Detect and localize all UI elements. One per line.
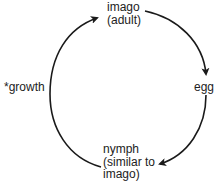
arrow-egg-to-nymph (160, 95, 206, 164)
node-egg-line-1: egg (194, 81, 214, 94)
node-imago-line-2: (adult) (107, 14, 141, 27)
arrow-nymph-to-imago (50, 18, 101, 167)
life-cycle-diagram: imago (adult) egg nymph (similar to imag… (0, 0, 221, 189)
node-nymph-line-3: imago) (103, 168, 155, 181)
node-nymph: nymph (similar to imago) (103, 143, 155, 181)
node-egg: egg (194, 81, 214, 94)
node-imago: imago (adult) (107, 1, 141, 26)
arrow-imago-to-egg (145, 11, 206, 74)
edge-label-growth: *growth (4, 81, 45, 94)
node-nymph-line-1: nymph (103, 143, 155, 156)
node-imago-line-1: imago (107, 1, 141, 14)
